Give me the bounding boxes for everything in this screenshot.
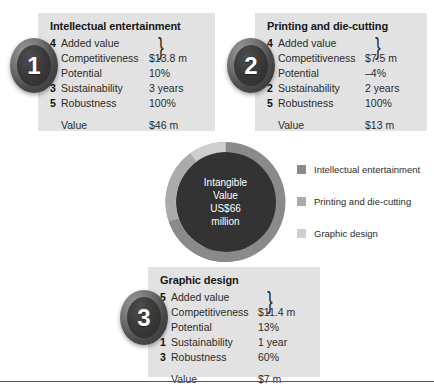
table-row: 1 Potential –4%	[267, 67, 417, 82]
table-row: 5 Robustness 100%	[50, 97, 205, 112]
chart-legend: Intellectual entertainment Printing and …	[297, 164, 420, 260]
center-line-1: Intangible	[204, 176, 247, 189]
panel-rows: } 4 Added value 2 Competitiveness $7.5 m…	[267, 37, 417, 134]
badge-1: 1	[10, 38, 58, 93]
total-value: $46 m	[149, 119, 205, 131]
brace-glyph: }	[267, 290, 273, 313]
row-value: $7.5 m	[365, 52, 417, 64]
footer-divider	[0, 381, 434, 382]
badge-number: 1	[27, 54, 40, 78]
center-line-3: US$66	[210, 202, 241, 215]
table-row: 3 Competitiveness $13.8 m	[50, 52, 205, 67]
row-label: Competitiveness	[278, 52, 365, 64]
row-score: 5	[50, 97, 61, 109]
row-score: 3	[160, 351, 171, 363]
row-value: 2 years	[365, 82, 417, 94]
total-label: Value	[267, 119, 365, 131]
panel-title: Intellectual entertainment	[50, 20, 205, 32]
brace-glyph: }	[375, 36, 381, 59]
row-label: Robustness	[171, 351, 258, 363]
table-row: 5 Potential 13%	[160, 321, 310, 336]
badge-number: 3	[137, 306, 150, 330]
table-row: 2 Sustainability 2 years	[267, 82, 417, 97]
center-line-4: million	[211, 215, 239, 228]
panel-rows: } 4 Added value 3 Competitiveness $13.8 …	[50, 37, 205, 134]
total-value: $13 m	[365, 119, 417, 131]
total-label: Value	[160, 373, 258, 385]
legend-swatch-icon	[297, 165, 306, 174]
row-label: Sustainability	[171, 336, 258, 348]
row-label: Sustainability	[61, 82, 149, 94]
brace-glyph: }	[158, 36, 164, 59]
row-label: Added value	[171, 291, 258, 303]
panel-intellectual-entertainment: Intellectual entertainment } 4 Added val…	[38, 13, 215, 131]
table-row: 2 Competitiveness $7.5 m	[267, 52, 417, 67]
center-line-2: Value	[213, 189, 238, 202]
row-value: 10%	[149, 67, 205, 79]
panel-rows: } 5 Added value 1 Competitiveness $11.4 …	[160, 291, 310, 388]
badge-3: 3	[120, 290, 168, 345]
row-value: 100%	[365, 97, 417, 109]
table-row: 4 Added value	[267, 37, 417, 52]
table-row: 5 Robustness 100%	[267, 97, 417, 112]
badge-number: 2	[244, 54, 257, 78]
total-label: Value	[50, 119, 149, 131]
legend-swatch-icon	[297, 197, 306, 206]
row-label: Potential	[278, 67, 365, 79]
total-value: $7 m	[258, 373, 310, 385]
row-score: 1	[160, 336, 171, 348]
donut-center-label: Intangible Value US$66 million	[176, 152, 276, 252]
row-value: 13%	[258, 321, 310, 333]
legend-item-graphic-design: Graphic design	[297, 228, 420, 239]
row-score: 5	[267, 97, 278, 109]
row-label: Potential	[61, 67, 149, 79]
row-value: $11.4 m	[258, 306, 310, 318]
table-row: 3 Robustness 60%	[160, 351, 310, 366]
table-row: 5 Potential 10%	[50, 67, 205, 82]
table-row-total: Value $13 m	[267, 119, 417, 134]
panel-graphic-design: Graphic design } 5 Added value 1 Competi…	[148, 267, 320, 377]
row-value: 60%	[258, 351, 310, 363]
table-row: 1 Competitiveness $11.4 m	[160, 306, 310, 321]
row-value: –4%	[365, 67, 417, 79]
legend-swatch-icon	[297, 229, 306, 238]
row-label: Competitiveness	[61, 52, 149, 64]
intangible-value-donut-chart: Intangible Value US$66 million	[163, 142, 288, 262]
legend-item-printing-die-cutting: Printing and die-cutting	[297, 196, 420, 207]
table-row: 4 Added value	[50, 37, 205, 52]
row-label: Potential	[171, 321, 258, 333]
table-row: 5 Added value	[160, 291, 310, 306]
panel-title: Graphic design	[160, 274, 310, 286]
panel-printing-die-cutting: Printing and die-cutting } 4 Added value…	[255, 13, 427, 131]
row-value: 3 years	[149, 82, 205, 94]
row-label: Sustainability	[278, 82, 365, 94]
badge-2: 2	[227, 38, 275, 93]
legend-item-intellectual-entertainment: Intellectual entertainment	[297, 164, 420, 175]
legend-label: Intellectual entertainment	[314, 164, 420, 175]
row-label: Robustness	[61, 97, 149, 109]
row-label: Added value	[278, 37, 365, 49]
panel-title: Printing and die-cutting	[267, 20, 417, 32]
table-row: 1 Sustainability 1 year	[160, 336, 310, 351]
legend-label: Printing and die-cutting	[314, 196, 411, 207]
row-value: 100%	[149, 97, 205, 109]
row-label: Competitiveness	[171, 306, 258, 318]
row-label: Added value	[61, 37, 149, 49]
legend-label: Graphic design	[314, 228, 378, 239]
table-row-total: Value $46 m	[50, 119, 205, 134]
table-row: 3 Sustainability 3 years	[50, 82, 205, 97]
row-value: 1 year	[258, 336, 310, 348]
row-label: Robustness	[278, 97, 365, 109]
